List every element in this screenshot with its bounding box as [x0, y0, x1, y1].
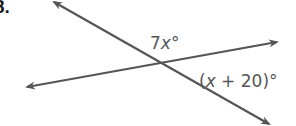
- angle-variable: x: [161, 33, 171, 53]
- degree-symbol: °: [269, 71, 278, 91]
- intersecting-lines-diagram: [0, 0, 296, 126]
- open-paren: (: [199, 71, 206, 91]
- degree-symbol: °: [171, 33, 180, 53]
- angle-variable: x: [206, 71, 216, 91]
- angle-label-7x: 7x°: [150, 35, 179, 52]
- angle-coef: 7: [150, 33, 161, 53]
- angle-label-x-plus-20: (x + 20)°: [199, 73, 278, 90]
- angle-expression-rest: + 20): [216, 71, 269, 91]
